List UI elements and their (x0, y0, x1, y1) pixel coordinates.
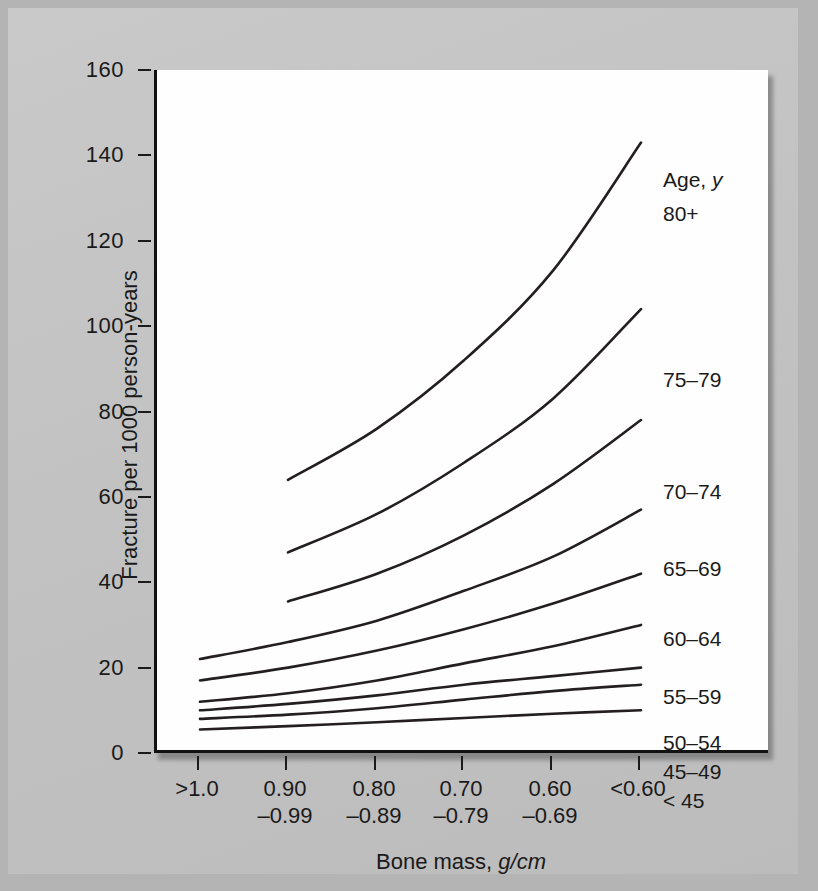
x-axis: Bone mass, g/cm >1.00.90–0.990.80–0.890.… (8, 753, 818, 873)
x-tick-label-line1: >1.0 (175, 776, 218, 801)
y-tick-label: 100 (54, 313, 124, 339)
series-label: 60–64 (663, 627, 721, 651)
x-tick-mark (374, 756, 376, 770)
y-tick-label: 80 (54, 399, 124, 425)
y-tick-mark (138, 411, 151, 413)
x-tick-label: <0.60 (578, 775, 698, 802)
y-tick-label: 120 (54, 228, 124, 254)
series-label: 75–79 (663, 368, 721, 392)
y-tick-mark (138, 154, 151, 156)
y-tick-mark (138, 325, 151, 327)
y-tick-mark (138, 240, 151, 242)
y-tick-label: 140 (54, 142, 124, 168)
x-tick-label-line1: 0.60 (529, 776, 572, 801)
series-line (200, 710, 641, 729)
series-label: 80+ (663, 202, 699, 226)
series-label: 65–69 (663, 557, 721, 581)
x-tick-label-line1: 0.80 (353, 776, 396, 801)
x-tick-label-line1: 0.70 (440, 776, 483, 801)
x-tick-label-line2: –0.69 (490, 802, 610, 829)
legend-title: Age, y (663, 168, 723, 192)
figure-root: Age, y80+75–7970–7465–6960–6455–5950–544… (0, 0, 818, 891)
y-tick-mark (138, 581, 151, 583)
y-tick-label: 160 (54, 57, 124, 83)
x-axis-label: Bone mass, g/cm (154, 849, 768, 875)
y-tick-mark (138, 69, 151, 71)
series-line (200, 574, 641, 681)
series-line (288, 309, 641, 552)
y-tick-mark (138, 496, 151, 498)
x-tick-label-line1: 0.90 (264, 776, 307, 801)
series-label: 55–59 (663, 685, 721, 709)
x-tick-mark (461, 756, 463, 770)
figure-panel: Age, y80+75–7970–7465–6960–6455–5950–544… (8, 8, 798, 874)
series-line (288, 420, 641, 601)
plot-area: Age, y80+75–7970–7465–6960–6455–5950–544… (154, 70, 768, 753)
y-tick-label: 20 (54, 655, 124, 681)
x-tick-mark (197, 756, 199, 770)
series-label: 50–54 (663, 731, 721, 755)
y-tick-mark (138, 667, 151, 669)
x-tick-mark (285, 756, 287, 770)
series-label: 70–74 (663, 480, 721, 504)
series-line (288, 143, 641, 480)
x-tick-mark (638, 756, 640, 770)
series-line (200, 510, 641, 659)
y-tick-label: 40 (54, 569, 124, 595)
y-tick-label: 60 (54, 484, 124, 510)
x-tick-mark (550, 756, 552, 770)
x-tick-label-line1: <0.60 (610, 776, 666, 801)
